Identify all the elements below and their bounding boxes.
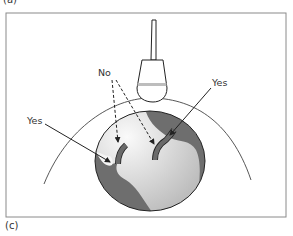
label-yes-left: Yes <box>26 115 42 126</box>
label-yes-right: Yes <box>211 77 227 88</box>
probe-cable <box>151 20 156 60</box>
diagram-canvas: No Yes Yes <box>0 0 293 236</box>
panel-label-c: (c) <box>5 220 18 231</box>
probe-head <box>137 60 167 102</box>
probe-band <box>138 83 167 86</box>
label-no: No <box>98 67 111 78</box>
